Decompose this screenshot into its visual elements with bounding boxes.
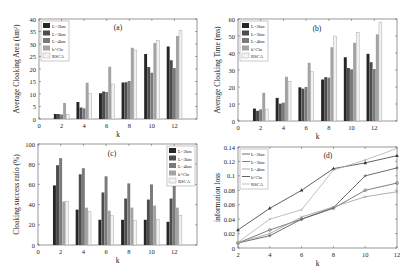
bar-l2km [167, 47, 170, 120]
x-tick-label: 12 [394, 251, 401, 258]
x-tick-label: 12 [171, 122, 178, 129]
y-tick-label: 0.02 [224, 230, 235, 237]
panel-label: (a) [114, 23, 123, 32]
x-axis-label: k [316, 259, 320, 268]
bar-l4km [350, 69, 353, 121]
bar-l3km [347, 68, 350, 121]
x-tick-label: 8 [128, 122, 131, 129]
bar-l4km [82, 168, 85, 245]
x-tick-label: 4 [83, 122, 87, 129]
bar-kclo [62, 202, 65, 245]
bar-l4km [105, 176, 108, 245]
bar-l2km [276, 98, 279, 121]
legend: L=2kmL=3kmL=4kmk^CloRSCA [240, 149, 268, 189]
x-tick-label: 12 [171, 248, 178, 255]
bar-l3km [370, 62, 373, 121]
bar-l2km [167, 222, 170, 245]
y-tick-label: 5 [33, 103, 36, 110]
bar-l4km [373, 69, 376, 121]
x-tick-label: 8 [332, 251, 335, 258]
bar-l4km [327, 78, 330, 121]
bar-rsca [356, 32, 359, 121]
y-tick-label: 40 [30, 16, 37, 23]
bar-kclo [176, 208, 179, 245]
y-tick-label: 30 [229, 67, 236, 74]
bar-l3km [256, 111, 259, 121]
legend-swatch [169, 171, 176, 176]
bar-rsca [111, 84, 114, 119]
legend-swatch [43, 23, 50, 28]
y-tick-label: 0.12 [224, 158, 235, 165]
bar-l4km [60, 115, 63, 120]
bar-l2km [76, 102, 79, 119]
bar-l3km [102, 92, 105, 120]
x-tick-label: 2 [60, 122, 63, 129]
y-tick-label: 30 [30, 41, 37, 48]
legend-label: L=4km [52, 39, 66, 44]
x-tick-label: 2 [259, 124, 262, 131]
legend-label: L=3km [251, 160, 265, 165]
bar-kclo [285, 77, 288, 121]
figure-canvas: 0510152025303540024681012kAverage Cloaki… [0, 0, 413, 275]
y-tick-label: 15 [30, 78, 37, 85]
bar-kclo [330, 47, 333, 121]
legend-swatch [43, 31, 50, 36]
bar-l4km [150, 184, 153, 245]
legend-label: k^Clo [52, 47, 64, 52]
legend-swatch [43, 38, 50, 43]
legend-label: L=2km [178, 149, 192, 154]
bar-l3km [170, 199, 173, 245]
bar-l3km [56, 165, 59, 245]
legend-swatch [169, 163, 176, 168]
x-axis-label: k [316, 132, 320, 141]
legend-swatch [169, 156, 176, 161]
point-rsca [364, 159, 366, 161]
bar-kclo [308, 63, 311, 121]
y-tick-label: 60 [29, 181, 36, 188]
legend-swatch [169, 148, 176, 153]
point-rsca [301, 209, 303, 211]
bar-l2km [98, 220, 101, 245]
x-tick-label: 6 [105, 122, 109, 129]
legend-label: k^Clo [251, 47, 263, 52]
bar-l3km [124, 199, 127, 245]
bar-rsca [179, 30, 182, 119]
bar-l3km [301, 89, 304, 121]
bar-l4km [59, 158, 62, 245]
legend-swatch [43, 46, 50, 51]
x-tick-label: 8 [127, 248, 130, 255]
legend: L=2kmL=3kmL=4kmk^CloRSCA [41, 21, 69, 61]
bar-kclo [86, 83, 89, 119]
legend-label: L=4km [251, 39, 265, 44]
x-tick-label: 10 [362, 251, 369, 258]
bar-l3km [101, 192, 104, 245]
bar-l2km [321, 80, 324, 121]
bar-l4km [173, 184, 176, 245]
bar-kclo [63, 103, 66, 119]
legend-label: L=2km [251, 24, 265, 29]
bar-rsca [156, 220, 159, 245]
x-axis-label: k [116, 256, 120, 265]
y-tick-label: 35 [30, 28, 37, 35]
legend-label: L=3km [251, 32, 265, 37]
panel-label: (b) [313, 24, 322, 33]
bar-l2km [99, 93, 102, 119]
x-tick-label: 0 [236, 124, 239, 131]
y-tick-label: 0 [32, 242, 35, 249]
bar-l4km [173, 68, 176, 119]
bar-kclo [131, 48, 134, 119]
bar-rsca [88, 212, 91, 245]
x-axis-label: k [116, 130, 120, 139]
legend-label: L=4km [251, 167, 265, 172]
bar-l3km [147, 200, 150, 245]
bar-l4km [150, 73, 153, 119]
x-tick-label: 6 [105, 248, 109, 255]
bar-l2km [144, 220, 147, 245]
bar-kclo [85, 208, 88, 245]
bar-kclo [153, 43, 156, 119]
panel-label: (c) [108, 149, 117, 158]
bar-kclo [108, 211, 111, 245]
bar-rsca [379, 22, 382, 121]
x-tick-label: 0 [36, 248, 39, 255]
bar-l4km [127, 183, 130, 245]
